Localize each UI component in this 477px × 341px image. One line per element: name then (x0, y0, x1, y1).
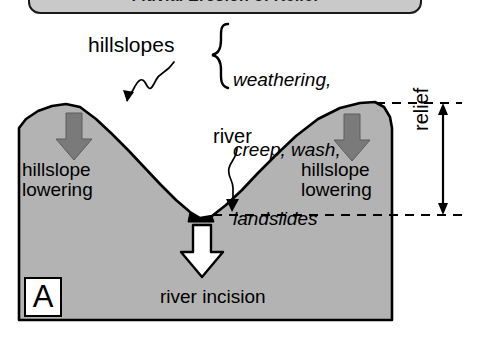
process-item-landslides: landslides (233, 207, 341, 230)
river-label: river (213, 126, 252, 147)
panel-letter-a: A (24, 277, 62, 317)
process-item-weathering: weathering, (233, 68, 341, 91)
hillslopes-label: hillslopes (88, 34, 174, 56)
right-hillslope-lowering-label: hillslope lowering (301, 160, 372, 201)
relief-label: relief (411, 88, 432, 131)
fluvial-erosion-diagram: Fluvial Erosion of Relief (0, 0, 477, 341)
river-incision-label: river incision (160, 287, 266, 307)
left-hillslope-lowering-label: hillslope lowering (22, 160, 93, 201)
hillslopes-pointer-icon (127, 62, 174, 100)
curly-brace-icon (212, 24, 228, 88)
relief-double-arrow-icon (438, 103, 448, 215)
hillslope-process-list: weathering, creep, wash, landslides (233, 22, 341, 277)
hillslopes-pointer-arrowhead-icon (123, 90, 134, 102)
